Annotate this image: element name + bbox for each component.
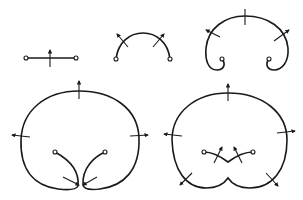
- normal-arrow-icon: [63, 177, 79, 185]
- endpoint-node: [251, 150, 255, 154]
- stage-3-horseshoe: [206, 9, 289, 70]
- stage-5-loop: [164, 84, 295, 188]
- normal-arrow-icon: [117, 34, 128, 47]
- endpoint-node: [103, 150, 107, 154]
- stage-2-arc: [114, 33, 172, 61]
- curve-evolution-diagram: [0, 0, 303, 200]
- endpoint-node: [220, 57, 224, 61]
- endpoint-node: [114, 57, 118, 61]
- normal-arrow-icon: [83, 177, 97, 185]
- endpoint-node: [24, 56, 28, 60]
- stage-4-loop: [12, 81, 148, 190]
- endpoint-node: [53, 150, 57, 154]
- endpoint-node: [267, 57, 271, 61]
- endpoint-node: [168, 57, 172, 61]
- endpoint-node: [74, 56, 78, 60]
- normal-arrow-icon: [130, 135, 148, 136]
- stage-1-segment: [24, 50, 78, 67]
- endpoint-node: [202, 150, 206, 154]
